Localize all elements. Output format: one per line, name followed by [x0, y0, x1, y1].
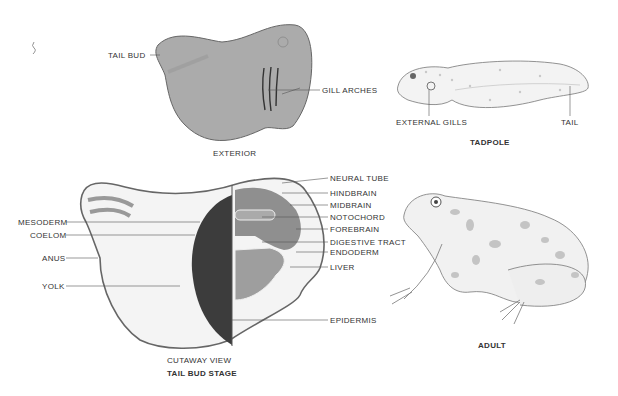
adult-frog	[390, 194, 588, 324]
exterior-embryo	[156, 25, 312, 141]
caption-cutaway-view: CUTAWAY VIEW	[167, 356, 231, 365]
label-gill-arches: GILL ARCHES	[322, 86, 377, 95]
caption-adult: ADULT	[478, 341, 506, 350]
label-coelom: COELOM	[30, 231, 66, 240]
diagram-canvas	[0, 0, 618, 396]
label-external-gills: EXTERNAL GILLS	[396, 118, 467, 127]
cutaway-embryo	[81, 178, 324, 348]
caption-exterior: EXTERIOR	[213, 149, 256, 158]
label-notochord: NOTOCHORD	[330, 213, 385, 222]
label-midbrain: MIDBRAIN	[330, 201, 372, 210]
label-forebrain: FOREBRAIN	[330, 225, 379, 234]
label-neural-tube: NEURAL TUBE	[330, 174, 389, 183]
label-anus: ANUS	[42, 254, 65, 263]
squiggle-mark	[33, 42, 36, 54]
label-tail: TAIL	[561, 118, 579, 127]
label-tail-bud: TAIL BUD	[108, 51, 146, 60]
label-hindbrain: HINDBRAIN	[330, 189, 377, 198]
label-liver: LIVER	[330, 263, 355, 272]
label-mesoderm: MESODERM	[18, 218, 68, 227]
tadpole-drawing	[397, 61, 588, 108]
caption-tadpole: TADPOLE	[470, 138, 510, 147]
caption-tail-bud-stage: TAIL BUD STAGE	[167, 369, 237, 378]
label-epidermis: EPIDERMIS	[330, 316, 377, 325]
label-digestive-tract: DIGESTIVE TRACT	[330, 238, 406, 247]
label-endoderm: ENDODERM	[330, 248, 379, 257]
label-yolk: YOLK	[42, 282, 65, 291]
